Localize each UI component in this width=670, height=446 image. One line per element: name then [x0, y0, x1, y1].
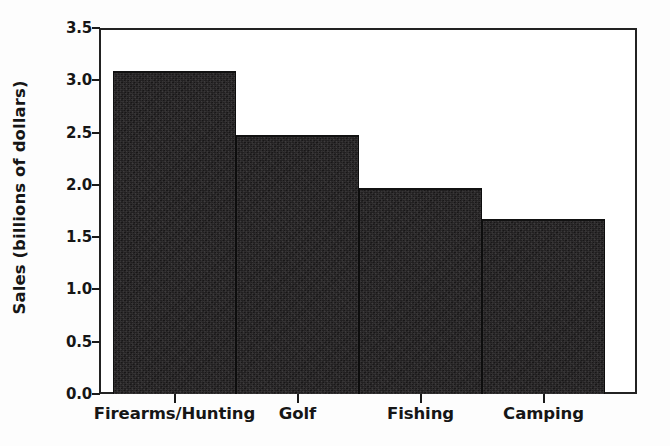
y-axis-tick-mark: [92, 27, 100, 29]
y-axis-title-text: Sales (billions of dollars): [10, 80, 29, 314]
bars-container: [99, 28, 637, 394]
x-axis-category-label: Golf: [279, 404, 316, 423]
y-axis-tick-label: 1.5: [48, 228, 92, 246]
y-axis-tick-label: 0.5: [48, 333, 92, 351]
y-axis-tick-labels: 0.00.51.01.52.02.53.03.5: [44, 0, 92, 446]
y-axis-tick-label: 2.5: [48, 124, 92, 142]
y-axis-tick-mark: [92, 288, 100, 290]
bar: [482, 219, 605, 394]
x-axis-tick-mark: [174, 394, 176, 403]
bar: [113, 71, 236, 394]
y-axis-tick-label: 3.0: [48, 71, 92, 89]
y-axis-tick-mark: [92, 79, 100, 81]
y-axis-tick-label: 3.5: [48, 19, 92, 37]
y-axis-tick-mark: [92, 236, 100, 238]
x-axis-tick-mark: [543, 394, 545, 403]
bar: [359, 188, 482, 394]
x-axis-tick-mark: [297, 394, 299, 403]
y-axis-tick-mark: [92, 132, 100, 134]
y-axis-tick-label: 1.0: [48, 280, 92, 298]
x-axis-tick-mark: [420, 394, 422, 403]
y-axis-tick-mark: [92, 393, 100, 395]
bar-chart-figure: Sales (billions of dollars) 0.00.51.01.5…: [0, 0, 670, 446]
x-axis-category-label: Camping: [503, 404, 584, 423]
x-axis-category-label: Firearms/Hunting: [94, 404, 255, 423]
y-axis-tick-label: 2.0: [48, 176, 92, 194]
y-axis-tick-mark: [92, 341, 100, 343]
y-axis-tick-label: 0.0: [48, 385, 92, 403]
y-axis-tick-mark: [92, 184, 100, 186]
bar: [236, 135, 359, 394]
y-axis-title: Sales (billions of dollars): [0, 0, 38, 394]
x-axis-category-label: Fishing: [387, 404, 454, 423]
